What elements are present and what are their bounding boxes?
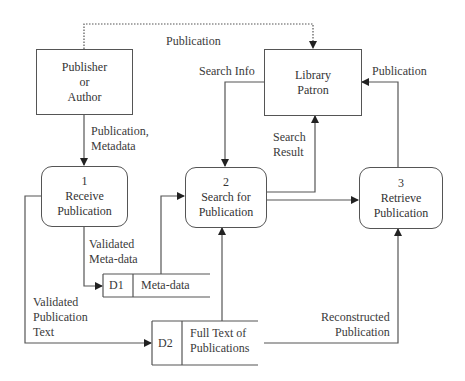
flow-label-sr-line1: Search bbox=[273, 130, 306, 145]
entity-patron-line2: Patron bbox=[295, 83, 331, 98]
entity-publisher-line3: Author bbox=[62, 90, 107, 105]
flow-label-search-info: Search Info bbox=[199, 64, 255, 79]
flow-label-rp-line2: Publication bbox=[321, 325, 390, 340]
flow-label-rp-line1: Reconstructed bbox=[321, 310, 390, 325]
data-store-d2-line1: Full Text of bbox=[190, 326, 249, 341]
process-retrieve-publication: 3 Retrieve Publication bbox=[359, 167, 443, 229]
process-1-number: 1 bbox=[57, 174, 112, 189]
process-2-number: 2 bbox=[199, 175, 254, 190]
process-2-line1: Search for bbox=[199, 190, 254, 205]
entity-library-patron: Library Patron bbox=[264, 49, 362, 116]
process-search-for-publication: 2 Search for Publication bbox=[185, 167, 267, 228]
flow-label-validated-metadata: Validated Meta-data bbox=[89, 237, 138, 267]
entity-patron-line1: Library bbox=[295, 68, 331, 83]
flow-label-reconstructed-publication: Reconstructed Publication bbox=[321, 310, 390, 340]
data-store-d2-id: D2 bbox=[158, 336, 173, 351]
flow-retrieve-to-patron bbox=[362, 82, 398, 167]
flow-label-vpt-line1: Validated bbox=[33, 295, 88, 310]
process-receive-publication: 1 Receive Publication bbox=[41, 166, 128, 227]
entity-publisher-line2: or bbox=[62, 75, 107, 90]
flow-label-publication-right: Publication bbox=[372, 64, 427, 79]
flow-label-vpt-line3: Text bbox=[33, 325, 88, 340]
flow-label-pm-line1: Publication, bbox=[91, 124, 149, 139]
flow-label-sr-line2: Result bbox=[273, 145, 306, 160]
entity-publisher: Publisher or Author bbox=[36, 49, 133, 115]
flow-search-info bbox=[225, 82, 264, 166]
flow-label-validated-publication-text: Validated Publication Text bbox=[33, 295, 88, 340]
flow-label-publication-metadata: Publication, Metadata bbox=[91, 124, 149, 154]
data-store-d1-id: D1 bbox=[109, 278, 124, 293]
entity-publisher-line1: Publisher bbox=[62, 60, 107, 75]
process-1-line2: Publication bbox=[57, 204, 112, 219]
flow-label-search-result: Search Result bbox=[273, 130, 306, 160]
process-1-line1: Receive bbox=[57, 189, 112, 204]
flow-d1-to-search bbox=[161, 196, 184, 274]
flow-label-vm-line2: Meta-data bbox=[89, 252, 138, 267]
flow-label-vpt-line2: Publication bbox=[33, 310, 88, 325]
data-store-d1-name: Meta-data bbox=[141, 278, 190, 293]
flow-label-vm-line1: Validated bbox=[89, 237, 138, 252]
process-2-line2: Publication bbox=[199, 205, 254, 220]
data-store-d2-name: Full Text of Publications bbox=[190, 326, 249, 356]
flow-label-publication-top: Publication bbox=[166, 34, 221, 49]
flow-label-pm-line2: Metadata bbox=[91, 139, 149, 154]
data-store-d2-line2: Publications bbox=[190, 341, 249, 356]
process-3-line1: Retrieve bbox=[374, 191, 429, 206]
process-3-line2: Publication bbox=[374, 206, 429, 221]
process-3-number: 3 bbox=[374, 176, 429, 191]
